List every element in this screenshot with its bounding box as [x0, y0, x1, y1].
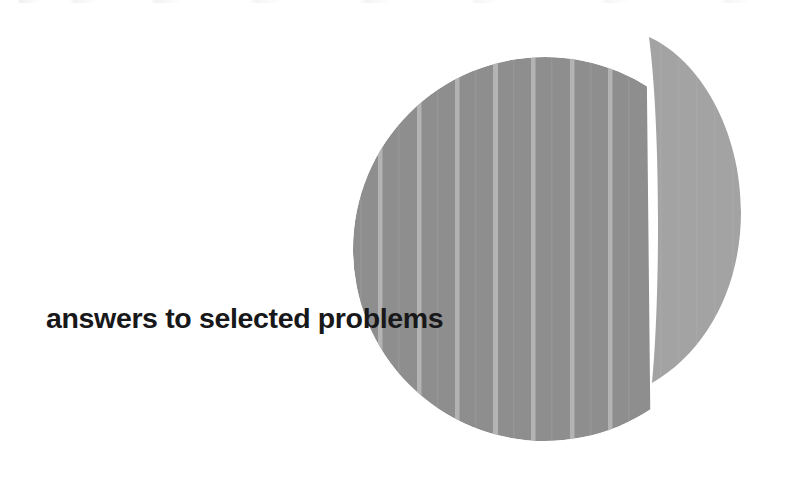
artwork-svg [0, 0, 795, 481]
cover-artwork [0, 0, 795, 481]
cover-page: answers to selected problems [0, 0, 795, 481]
right-crescent [640, 0, 760, 481]
crescent-base-fill [640, 20, 760, 410]
page-title: answers to selected problems [46, 301, 443, 335]
